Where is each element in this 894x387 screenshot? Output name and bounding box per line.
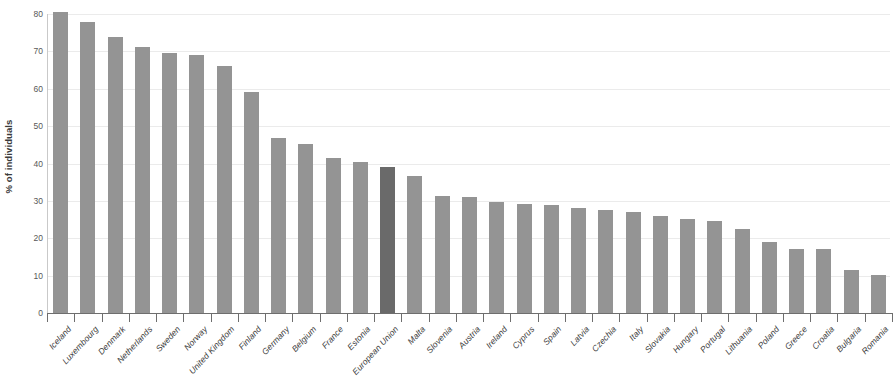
- bar[interactable]: [844, 270, 859, 313]
- x-axis-tick-label: Poland: [756, 324, 782, 351]
- x-axis-tick-label: Austria: [456, 324, 482, 351]
- x-axis-tick: [483, 313, 484, 322]
- bar[interactable]: [680, 219, 695, 313]
- x-axis-tick: [401, 313, 402, 322]
- x-axis-tick: [865, 313, 866, 322]
- x-axis-tick-label: Lithuania: [723, 324, 754, 357]
- x-axis-tick-label: Estonia: [346, 324, 373, 352]
- y-axis-tick-label: 30: [21, 196, 43, 206]
- y-axis-tick-label: 80: [21, 9, 43, 19]
- x-axis-tick-label: Malta: [405, 324, 427, 346]
- x-axis-tick: [783, 313, 784, 322]
- x-axis-tick: [429, 313, 430, 322]
- x-axis-tick-label: Greece: [782, 324, 809, 352]
- y-axis-title: % of individuals: [0, 0, 18, 313]
- x-axis-tick: [183, 313, 184, 322]
- bar[interactable]: [217, 66, 232, 313]
- y-axis-tick-label: 40: [21, 159, 43, 169]
- y-axis-title-label: % of individuals: [4, 120, 15, 194]
- bar[interactable]: [871, 275, 886, 313]
- x-axis-tick-label: Germany: [259, 324, 291, 357]
- x-axis-tick: [892, 313, 893, 322]
- y-axis-tick-label: 20: [21, 233, 43, 243]
- bar[interactable]: [435, 196, 450, 313]
- bar[interactable]: [544, 205, 559, 313]
- bar-chart: % of individuals 01020304050607080 Icela…: [0, 0, 894, 387]
- x-axis-tick: [619, 313, 620, 322]
- x-axis-tick: [74, 313, 75, 322]
- x-axis-tick-label: Sweden: [153, 324, 182, 354]
- bar[interactable]: [707, 221, 722, 313]
- x-axis-tick: [374, 313, 375, 322]
- x-axis-tick: [129, 313, 130, 322]
- bar[interactable]: [326, 158, 341, 313]
- bar[interactable]: [80, 22, 95, 313]
- x-axis-tick: [510, 313, 511, 322]
- bar[interactable]: [53, 12, 68, 313]
- bar[interactable]: [407, 176, 422, 313]
- y-axis-tick-labels: 01020304050607080: [17, 14, 43, 313]
- x-axis-tick: [456, 313, 457, 322]
- x-axis-tick-label: Croatia: [810, 324, 836, 351]
- x-axis-tick-label: Belgium: [290, 324, 319, 354]
- x-axis-tick-label: Iceland: [46, 324, 72, 351]
- y-axis-tick-label: 60: [21, 84, 43, 94]
- x-axis-tick: [565, 313, 566, 322]
- x-axis-ticks: [47, 313, 892, 322]
- bar[interactable]: [298, 144, 313, 313]
- bar[interactable]: [189, 55, 204, 313]
- x-axis-tick: [756, 313, 757, 322]
- x-axis-tick-label: Slovakia: [643, 324, 673, 355]
- bar[interactable]: [108, 37, 123, 313]
- x-axis-tick: [728, 313, 729, 322]
- x-axis-tick: [156, 313, 157, 322]
- y-axis-tick-label: 10: [21, 271, 43, 281]
- bar[interactable]: [353, 162, 368, 313]
- bar[interactable]: [517, 204, 532, 314]
- x-axis-tick: [320, 313, 321, 322]
- x-axis-tick: [347, 313, 348, 322]
- bar[interactable]: [571, 208, 586, 313]
- x-axis-tick: [102, 313, 103, 322]
- x-axis-tick-label: France: [320, 324, 346, 351]
- x-axis-tick: [292, 313, 293, 322]
- x-axis-tick-labels: IcelandLuxembourgDenmarkNetherlandsSwede…: [47, 322, 892, 387]
- y-axis-tick-label: 50: [21, 121, 43, 131]
- bar[interactable]: [626, 212, 641, 313]
- bar[interactable]: [789, 249, 804, 313]
- bar[interactable]: [380, 167, 395, 314]
- bar[interactable]: [653, 216, 668, 313]
- x-axis-tick-label: Latvia: [568, 324, 591, 348]
- bar[interactable]: [271, 138, 286, 313]
- y-axis-tick-label: 0: [21, 308, 43, 318]
- x-axis-tick: [592, 313, 593, 322]
- x-axis-tick: [538, 313, 539, 322]
- bar[interactable]: [816, 249, 831, 313]
- x-axis-tick-label: Romania: [860, 324, 891, 356]
- x-axis-tick-label: Italy: [627, 324, 645, 343]
- bar[interactable]: [598, 210, 613, 313]
- x-axis-tick-label: Spain: [541, 324, 563, 347]
- x-axis-tick: [674, 313, 675, 322]
- x-axis-tick-label: Ireland: [484, 324, 510, 350]
- x-axis-tick-label: Finland: [237, 324, 264, 352]
- x-axis-tick: [837, 313, 838, 322]
- bars-container: [47, 14, 892, 313]
- bar[interactable]: [762, 242, 777, 313]
- x-axis-tick-label: Hungary: [670, 324, 700, 355]
- x-axis-tick: [238, 313, 239, 322]
- y-axis-tick-label: 70: [21, 46, 43, 56]
- bar[interactable]: [462, 197, 477, 313]
- bar[interactable]: [735, 229, 750, 313]
- x-axis-tick-label: Slovenia: [424, 324, 454, 355]
- bar[interactable]: [162, 53, 177, 313]
- bar[interactable]: [244, 92, 259, 313]
- x-axis-tick-label: Cyprus: [510, 324, 536, 351]
- bar[interactable]: [489, 202, 504, 313]
- x-axis-tick: [47, 313, 48, 322]
- x-axis-tick: [647, 313, 648, 322]
- x-axis-tick-label: Czechia: [589, 324, 618, 354]
- bar[interactable]: [135, 47, 150, 313]
- x-axis-tick: [701, 313, 702, 322]
- x-axis-tick: [211, 313, 212, 322]
